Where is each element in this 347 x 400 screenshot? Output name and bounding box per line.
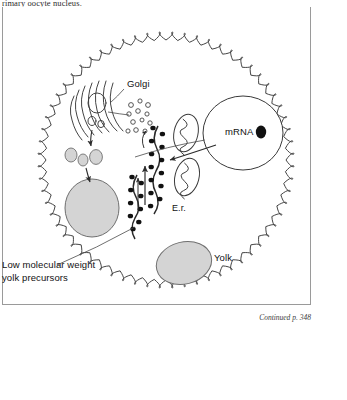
label-golgi: Golgi [127,78,150,89]
continued-note: Continued p. 348 [259,313,311,322]
label-lmw-line2: yolk precursors [2,271,95,284]
label-mrna: mRNA [225,126,253,137]
label-endoplasmic-reticulum: E.r. [172,203,186,213]
label-lmw-line1: Low molecular weight [2,258,95,271]
label-low-molecular-weight-yolk-precursors: Low molecular weight yolk precursors [2,258,95,284]
label-yolk: Yolk [214,252,232,263]
